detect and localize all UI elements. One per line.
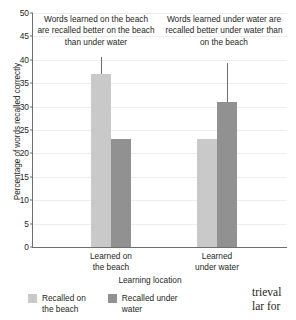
y-tick-label-40: 40 (20, 55, 29, 65)
y-tick-label-0: 0 (24, 242, 29, 252)
y-tick-label-45: 45 (20, 31, 29, 41)
gridline-40 (33, 60, 287, 61)
y-tick-mark-15 (30, 176, 33, 177)
page-body-text-bleed: trieval lar for (252, 286, 296, 313)
legend: Recalled on the beachRecalled under wate… (28, 293, 178, 316)
y-tick-label-20: 20 (20, 148, 29, 158)
legend-label-1: Recalled under water (122, 293, 178, 316)
y-tick-mark-20 (30, 153, 33, 154)
annotation-underwater: Words learned under water are recalled b… (163, 14, 285, 48)
leader-line-0 (101, 57, 102, 74)
y-tick-mark-30 (30, 106, 33, 107)
y-tick-label-15: 15 (20, 172, 29, 182)
bar-group-1-series-1 (217, 102, 237, 247)
bar-group-0-series-0 (91, 74, 111, 247)
y-tick-mark-0 (30, 247, 33, 248)
x-category-line: under water (168, 262, 266, 273)
y-tick-label-5: 5 (24, 219, 29, 229)
leader-line-1 (227, 63, 228, 102)
gridline-30 (33, 107, 287, 108)
y-tick-mark-40 (30, 59, 33, 60)
y-tick-mark-45 (30, 36, 33, 37)
annotation-beach: Words learned on the beach are recalled … (37, 14, 155, 48)
x-axis-line (32, 247, 287, 248)
bar-group-0-series-1 (111, 139, 131, 247)
gridline-35 (33, 83, 287, 84)
x-category-line: the beach (62, 262, 160, 273)
y-tick-label-10: 10 (20, 195, 29, 205)
legend-item-0[interactable]: Recalled on the beach (28, 293, 86, 316)
legend-swatch-0 (28, 294, 37, 303)
y-tick-mark-50 (30, 13, 33, 14)
y-tick-mark-25 (30, 130, 33, 131)
y-tick-mark-35 (30, 83, 33, 84)
gridline-25 (33, 130, 287, 131)
bar-chart-figure: Percentage of words recalled correctly 0… (0, 0, 296, 320)
x-axis-category-label-0: Learned onthe beach (62, 251, 160, 274)
y-tick-label-25: 25 (20, 125, 29, 135)
gridline-10 (33, 200, 287, 201)
x-axis-title: Learning location (55, 275, 245, 285)
bar-group-1-series-0 (197, 139, 217, 247)
gridline-20 (33, 153, 287, 154)
gridline-15 (33, 177, 287, 178)
x-axis-category-label-1: Learnedunder water (168, 251, 266, 274)
y-tick-mark-10 (30, 200, 33, 201)
legend-label-0: Recalled on the beach (42, 293, 86, 316)
x-category-line: Learned on (62, 251, 160, 262)
y-tick-label-35: 35 (20, 78, 29, 88)
y-tick-label-30: 30 (20, 102, 29, 112)
gridline-5 (33, 224, 287, 225)
plot-area: 05101520253035404550 (33, 13, 287, 247)
y-tick-label-50: 50 (20, 8, 29, 18)
legend-swatch-1 (108, 294, 117, 303)
x-category-line: Learned (168, 251, 266, 262)
legend-item-1[interactable]: Recalled under water (108, 293, 178, 316)
y-tick-mark-5 (30, 223, 33, 224)
